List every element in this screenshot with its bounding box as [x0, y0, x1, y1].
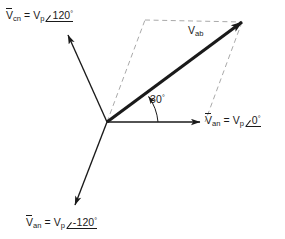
vcn-label: Vcn = Vp120° [6, 10, 73, 22]
vbn-label: Van = Vp-120° [26, 217, 97, 229]
vbn-magnitude-subscript: p [61, 221, 65, 230]
angle-30-degree-sign: ° [162, 93, 165, 102]
vbn-vector-symbol: V [26, 217, 33, 228]
phasor-vbn-arrow [75, 122, 107, 205]
vcn-subscript: cn [13, 14, 21, 23]
vcn-magnitude-subscript: p [40, 14, 44, 23]
vbn-equals: = V [41, 216, 60, 228]
vab-label: Vab [188, 25, 203, 37]
vab-subscript: ab [195, 29, 203, 38]
angle-30-value: 30 [150, 93, 162, 105]
vbn-degree-sign: ° [94, 216, 97, 225]
van-label: Van = Vp0° [205, 115, 261, 127]
vcn-angle-value: 120 [52, 9, 70, 21]
vcn-degree-sign: ° [70, 9, 73, 18]
van-degree-sign: ° [258, 114, 261, 123]
vcn-angle-symbol: 120° [46, 10, 73, 21]
van-magnitude-subscript: p [240, 119, 244, 128]
van-equals: = V [220, 114, 239, 126]
van-angle-symbol: 0° [245, 115, 260, 126]
phasor-diagram-figure: Vcn = Vp120° Van = Vp-120° Van = Vp0° Va… [0, 0, 285, 239]
phasor-vab-arrow [107, 22, 242, 122]
phasor-vcn-arrow [68, 35, 107, 122]
vbn-angle-symbol: -120° [66, 217, 97, 228]
vcn-equals: = V [21, 9, 40, 21]
dashed-edge-top [145, 20, 242, 22]
vbn-angle-value: -120 [73, 216, 94, 228]
angle-30-label: 30° [150, 94, 165, 105]
van-vector-symbol: V [205, 115, 212, 126]
vcn-vector-symbol: V [6, 10, 13, 21]
